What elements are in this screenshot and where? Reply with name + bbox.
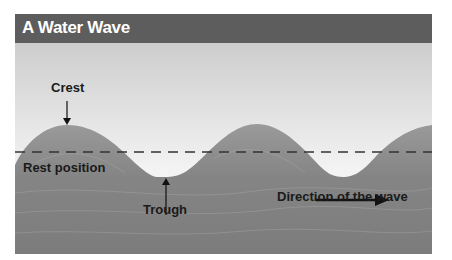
diagram-title: A Water Wave: [22, 18, 130, 38]
rest-position-label: Rest position: [23, 160, 105, 175]
crest-label: Crest: [51, 80, 84, 95]
trough-label: Trough: [143, 202, 187, 217]
wave-illustration: [15, 43, 432, 254]
wave-diagram: A Water Wave: [15, 14, 432, 254]
title-bar: A Water Wave: [15, 14, 432, 43]
direction-label: Direction of the wave: [277, 189, 408, 204]
